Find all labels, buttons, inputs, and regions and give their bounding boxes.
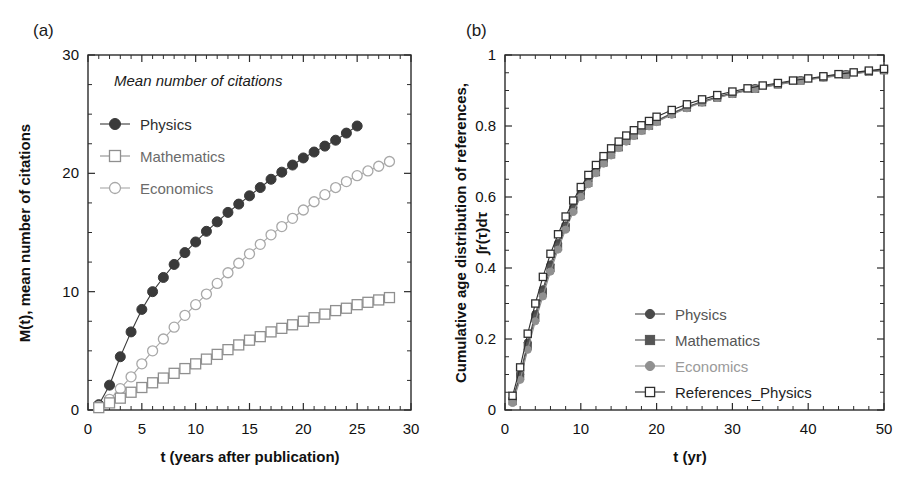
- legend-label: Mathematics: [675, 332, 760, 349]
- legend-item-physics: Physics: [635, 306, 727, 323]
- panel-a-xtick-label: 25: [349, 420, 366, 437]
- panel-a-legend: PhysicsMathematicsEconomics: [100, 116, 225, 197]
- panel-b-xtick-label: 30: [724, 420, 741, 437]
- panel-a-xtick-label: 10: [187, 420, 204, 437]
- panel-b-chart: 0102030405000.20.40.60.81 PhysicsMathema…: [452, 46, 892, 465]
- panel-a-xtick-label: 20: [295, 420, 312, 437]
- panel-b-ylabel-line1: Cumulative age distribution of reference…: [452, 83, 469, 383]
- panel-a-ytick-label: 0: [71, 401, 79, 418]
- panel-b-ytick-label: 1: [488, 46, 496, 63]
- panel-a-xtick-label: 30: [403, 420, 420, 437]
- series-physics: [509, 66, 888, 403]
- panel-b-xtick-label: 20: [648, 420, 665, 437]
- panel-b-tag: (b): [466, 21, 487, 40]
- panel-a-xtick-label: 15: [241, 420, 258, 437]
- legend-label: Mathematics: [140, 148, 225, 165]
- panel-b-xtick-label: 40: [800, 420, 817, 437]
- panel-b-ytick-label: 0.4: [475, 259, 496, 276]
- legend-label: Economics: [140, 180, 213, 197]
- panel-a-legend-title: Mean number of citations: [114, 72, 283, 89]
- panel-b-xtick-label: 0: [501, 420, 509, 437]
- legend-item-references-physics: References_Physics: [635, 384, 812, 401]
- legend-label: Physics: [675, 306, 727, 323]
- panel-b-ylabel-line2: ∫r(τ)dτ: [473, 211, 491, 255]
- legend-item-economics: Economics: [635, 358, 748, 375]
- legend-label: References_Physics: [675, 384, 812, 401]
- panel-b-ytick-label: 0.6: [475, 188, 496, 205]
- panel-a-chart: 0510152025300102030 Mean number of citat…: [16, 46, 419, 465]
- panel-a-xtick-label: 0: [84, 420, 92, 437]
- panel-a-series: [94, 121, 395, 413]
- panel-b-ytick-label: 0.2: [475, 330, 496, 347]
- panel-b-series: [509, 65, 888, 406]
- panel-a-xtick-label: 5: [138, 420, 146, 437]
- legend-item-physics: Physics: [100, 116, 192, 133]
- series-physics: [94, 121, 362, 410]
- figure-svg: (a) (b) 0510152025300102030 Mean number …: [0, 0, 913, 495]
- panel-a-axes: [88, 55, 411, 410]
- legend-item-economics: Economics: [100, 180, 213, 197]
- panel-b-xtick-label: 10: [572, 420, 589, 437]
- panel-b-ytick-label: 0.8: [475, 117, 496, 134]
- series-mathematics: [509, 67, 888, 405]
- panel-a-xlabel: t (years after publication): [160, 448, 339, 465]
- panel-a-tag: (a): [33, 21, 54, 40]
- panel-b-legend: PhysicsMathematicsEconomicsReferences_Ph…: [635, 306, 812, 401]
- legend-label: Physics: [140, 116, 192, 133]
- panel-b-xtick-label: 50: [876, 420, 893, 437]
- panel-a-ylabel: M(t), mean number of citations: [16, 124, 33, 342]
- legend-label: Economics: [675, 358, 748, 375]
- panel-a-ytick-label: 10: [62, 283, 79, 300]
- panel-a-ytick-label: 20: [62, 164, 79, 181]
- legend-item-mathematics: Mathematics: [635, 332, 760, 349]
- figure-container: (a) (b) 0510152025300102030 Mean number …: [0, 0, 913, 495]
- panel-b-xlabel: t (yr): [673, 448, 706, 465]
- series-economics: [509, 67, 888, 406]
- legend-item-mathematics: Mathematics: [100, 148, 225, 165]
- panel-a-tick-labels: 0510152025300102030: [62, 46, 419, 437]
- panel-b-ytick-label: 0: [488, 401, 496, 418]
- panel-a-ytick-label: 30: [62, 46, 79, 63]
